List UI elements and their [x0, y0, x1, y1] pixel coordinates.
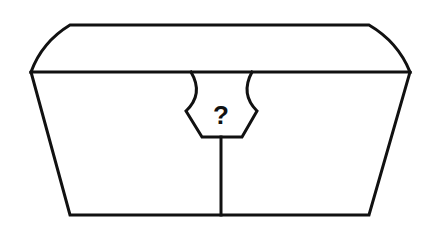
lock-question-mark: ? [213, 100, 229, 130]
chest-lid [31, 25, 410, 72]
chest-diagram: ? [0, 0, 435, 238]
